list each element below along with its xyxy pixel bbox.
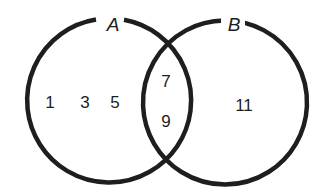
set-a-element: 1 (45, 93, 54, 112)
set-a-label: A (106, 14, 120, 35)
set-b-label: B (228, 14, 241, 35)
set-a-element: 5 (110, 93, 119, 112)
set-b-circle (143, 21, 307, 185)
set-b-element: 11 (235, 96, 253, 115)
venn-diagram: A B 1 3 5 7 9 11 (0, 0, 323, 192)
intersection-element: 9 (161, 112, 170, 131)
intersection-element: 7 (161, 72, 170, 91)
set-a-element: 3 (80, 93, 89, 112)
